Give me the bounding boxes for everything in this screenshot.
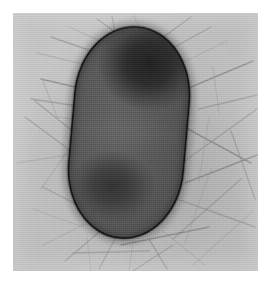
micrograph-plate	[13, 13, 258, 271]
micrograph-viewport	[0, 0, 274, 291]
bacterial-cell	[62, 21, 196, 243]
